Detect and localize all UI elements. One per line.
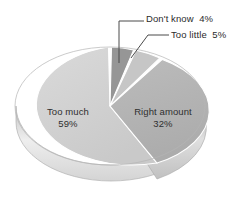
slice-label-too-much: Too much 59% bbox=[26, 106, 110, 129]
callout-label-dont-know: Don't know 4% bbox=[146, 13, 213, 24]
slice-label-right-amount: Right amount 32% bbox=[118, 106, 208, 129]
callout-label-too-little: Too little 5% bbox=[171, 29, 226, 40]
pie-chart: Don't know 4% Too little 5% Too much 59%… bbox=[0, 0, 246, 198]
